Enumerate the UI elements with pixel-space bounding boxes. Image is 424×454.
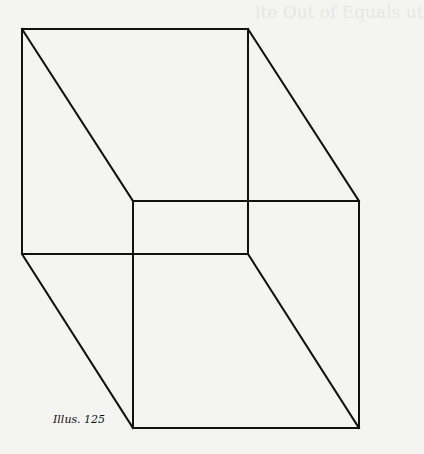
back-face — [22, 29, 248, 254]
edge-top-right — [248, 29, 359, 201]
edge-bottom-right — [248, 254, 359, 428]
edge-top-left — [22, 29, 133, 201]
figure-caption: Illus. 125 — [53, 413, 105, 426]
front-face — [133, 201, 359, 428]
edge-bottom-left — [22, 254, 133, 428]
